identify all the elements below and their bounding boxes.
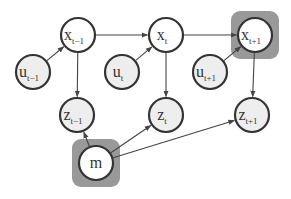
node-u_tp1: ut+1: [193, 55, 227, 89]
node-m: m: [79, 146, 113, 180]
edge-m-to-z_t: [111, 125, 151, 152]
edge-u_tm1-to-x_tm1: [47, 47, 64, 61]
node-circle: [105, 55, 139, 89]
node-z_tm1: zt−1: [60, 98, 94, 132]
node-x_tp1: xt+1: [238, 18, 272, 52]
node-u_tm1: ut−1: [16, 55, 50, 89]
graphical-model-diagram: xt−1ut−1zt−1xtutztxt+1ut+1zt+1m: [0, 0, 291, 199]
node-z_t: zt: [149, 98, 183, 132]
node-label: m: [90, 154, 103, 171]
node-u_t: ut: [105, 55, 139, 89]
node-x_t: xt: [149, 18, 183, 52]
edge-u_t-to-x_t: [136, 47, 152, 61]
edges: [47, 35, 254, 158]
node-z_tp1: zt+1: [235, 98, 269, 132]
node-circle: [149, 18, 183, 52]
node-x_tm1: xt−1: [61, 18, 95, 52]
node-circle: [149, 98, 183, 132]
edge-x_tm1-to-z_tm1: [77, 53, 78, 97]
edge-x_tp1-to-z_tp1: [253, 53, 255, 97]
